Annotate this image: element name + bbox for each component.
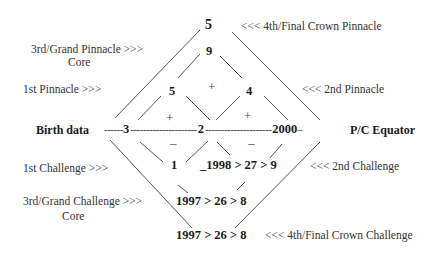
grand-challenge-value: 1997 > 26 > 8 bbox=[176, 195, 247, 208]
equator-dashes-mid-2: --------------------- bbox=[205, 124, 271, 135]
inner-1998-to-1997-line bbox=[237, 182, 245, 190]
right-minus-sign: – bbox=[248, 136, 255, 149]
center-plus-sign: + bbox=[208, 80, 215, 93]
first-challenge-label: 1st Challenge >>> bbox=[23, 163, 108, 175]
second-challenge-label: <<< 2nd Challenge bbox=[310, 161, 399, 173]
second-pinnacle-label: <<< 2nd Pinnacle bbox=[302, 84, 384, 96]
crown-challenge-value: 1997 > 26 > 8 bbox=[176, 229, 247, 242]
pc-equator-label: P/C Equator bbox=[350, 124, 415, 136]
first-pinnacle-value: 5 bbox=[169, 85, 175, 98]
left-minus-sign: – bbox=[170, 136, 177, 149]
inner-4-to-2000-line bbox=[264, 96, 288, 120]
equator-year-value: 2000 bbox=[272, 123, 297, 136]
grand-challenge-core-label: Core bbox=[62, 211, 84, 223]
inner-5-to-3-line bbox=[138, 96, 161, 120]
second-challenge-value: _1998 > 27 > 9 bbox=[200, 159, 277, 172]
inner-4-to-2-line bbox=[216, 96, 240, 120]
grand-challenge-label: 3rd/Grand Challenge >>> bbox=[23, 196, 142, 208]
grand-pinnacle-label: 3rd/Grand Pinnacle >>> bbox=[31, 44, 143, 56]
inner-5-to-2-line bbox=[186, 96, 210, 120]
inner-1-to-1997-line bbox=[178, 185, 188, 193]
first-challenge-value: 1 bbox=[171, 159, 177, 172]
equator-line: ------ 3 --------------------- 2 -------… bbox=[104, 123, 302, 136]
outer-upper-right-line bbox=[232, 32, 320, 120]
equator-dashes-left: ------ bbox=[104, 124, 123, 135]
equator-dashes-mid-1: --------------------- bbox=[130, 124, 196, 135]
birth-data-label: Birth data bbox=[36, 124, 89, 136]
equator-birth-value: 3 bbox=[123, 123, 129, 136]
outer-lower-left-line bbox=[110, 140, 192, 228]
inner-9-to-5-line bbox=[178, 54, 200, 78]
inner-3-to-1-line bbox=[140, 142, 163, 162]
first-pinnacle-label: 1st Pinnacle >>> bbox=[23, 84, 101, 96]
equator-dash-right: – bbox=[297, 124, 302, 135]
crown-pinnacle-label: <<< 4th/Final Crown Pinnacle bbox=[241, 21, 382, 33]
equator-center-value: 2 bbox=[198, 123, 204, 136]
grand-pinnacle-value: 9 bbox=[206, 45, 212, 58]
inner-9-to-2000-line bbox=[270, 144, 282, 158]
grand-pinnacle-core-label: Core bbox=[68, 57, 90, 69]
outer-lower-right-line bbox=[235, 142, 320, 228]
inner-2-to-1998-line bbox=[217, 142, 230, 155]
second-pinnacle-value: 4 bbox=[246, 85, 252, 98]
inner-9-to-4-line bbox=[220, 56, 242, 78]
crown-challenge-label: <<< 4th/Final Crown Challenge bbox=[265, 230, 413, 242]
pinnacle-challenge-diagram: 5 <<< 4th/Final Crown Pinnacle 3rd/Grand… bbox=[0, 0, 448, 254]
right-plus-sign: + bbox=[244, 109, 251, 122]
crown-pinnacle-value: 5 bbox=[205, 18, 212, 32]
